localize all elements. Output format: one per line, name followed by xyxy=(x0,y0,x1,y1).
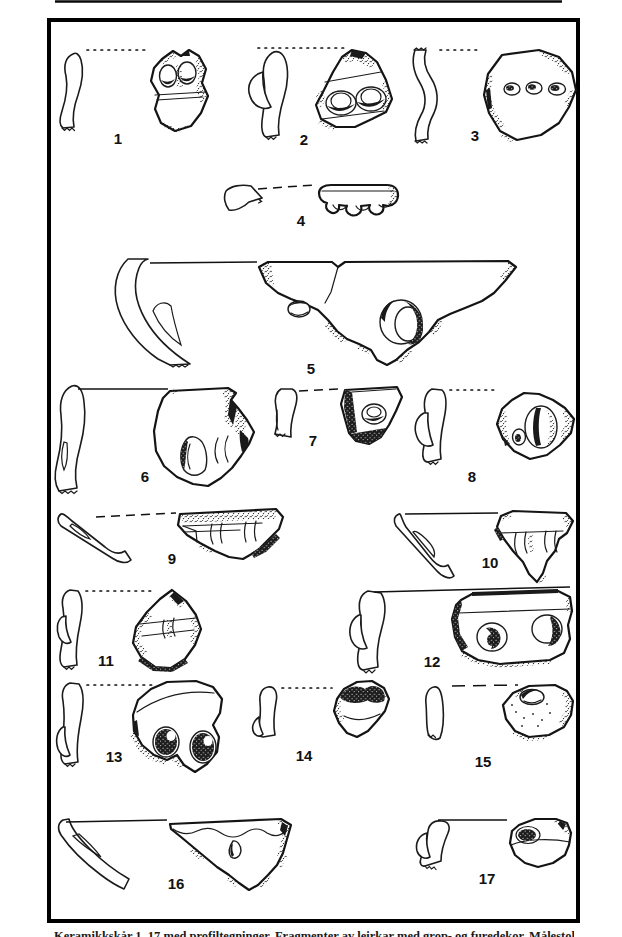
face-view xyxy=(484,50,576,142)
figure-15-drawing xyxy=(426,685,573,741)
face-view xyxy=(341,387,402,444)
figure-7-drawing xyxy=(275,387,402,444)
figure-8-drawing xyxy=(415,389,574,465)
figure-12-drawing xyxy=(350,587,572,673)
figure-10-label: 10 xyxy=(482,555,499,571)
figure-13-drawing xyxy=(57,681,222,772)
plate-illustration xyxy=(0,0,622,937)
face-view xyxy=(259,261,516,365)
reference-line xyxy=(452,685,518,686)
reference-line xyxy=(96,513,176,517)
figure-6-label: 6 xyxy=(141,469,149,485)
profile-section xyxy=(59,819,129,889)
face-outline xyxy=(497,511,573,582)
figure-9-label: 9 xyxy=(168,551,176,567)
face-view xyxy=(510,819,571,867)
figure-6-drawing xyxy=(55,386,254,494)
profile-section xyxy=(55,386,85,491)
figure-2-label: 2 xyxy=(300,132,308,148)
figure-15-label: 15 xyxy=(475,754,492,770)
face-view xyxy=(151,50,208,133)
figure-3-label: 3 xyxy=(471,128,479,144)
profile-section xyxy=(413,50,437,141)
figure-4-label: 4 xyxy=(297,213,305,229)
figure-14-drawing xyxy=(253,681,389,737)
reference-line xyxy=(66,820,167,822)
figure-1-label: 1 xyxy=(114,131,122,147)
face-view xyxy=(334,681,389,737)
face-view xyxy=(133,590,201,672)
figure-11-drawing xyxy=(57,590,201,672)
face-view xyxy=(178,509,283,559)
figure-5-drawing xyxy=(115,259,516,367)
figure-13-label: 13 xyxy=(106,749,123,765)
face-view xyxy=(503,685,573,741)
figure-7-label: 7 xyxy=(309,433,317,449)
figure-10-drawing xyxy=(394,511,573,584)
figure-17-label: 17 xyxy=(479,871,496,887)
profile-section xyxy=(60,53,82,128)
profile-section xyxy=(225,185,262,210)
reference-line xyxy=(299,389,340,391)
plate-frame xyxy=(49,20,578,921)
face-view xyxy=(494,511,573,584)
face-view xyxy=(319,185,398,215)
figure-11-label: 11 xyxy=(98,653,114,669)
reference-line xyxy=(150,262,257,263)
reference-line xyxy=(258,185,314,189)
figure-5-label: 5 xyxy=(307,361,315,377)
face-outline xyxy=(319,185,398,215)
face-view xyxy=(316,50,392,131)
figure-1-drawing xyxy=(60,50,208,133)
figure-3-drawing xyxy=(413,48,576,143)
figure-16-label: 16 xyxy=(168,876,185,892)
profile-section xyxy=(426,687,444,739)
plate-caption: Keramikkskår 1–17 med profiltegninger. F… xyxy=(54,929,574,937)
face-view xyxy=(452,589,572,668)
profile-section xyxy=(115,259,190,365)
scanned-page: 1 2 3 4 5 6 7 8 9 10 11 12 13 14 15 16 1… xyxy=(0,0,622,937)
figure-14-label: 14 xyxy=(296,748,313,764)
figure-2-drawing xyxy=(249,48,392,140)
reference-line xyxy=(405,513,498,514)
figure-17-drawing xyxy=(416,819,571,870)
profile-section xyxy=(58,514,131,563)
face-view xyxy=(154,388,254,486)
face-view xyxy=(497,393,574,459)
face-view xyxy=(170,819,291,890)
figure-4-drawing xyxy=(225,185,398,215)
figure-12-label: 12 xyxy=(424,654,441,670)
face-view xyxy=(130,681,222,772)
figure-8-label: 8 xyxy=(468,469,476,485)
